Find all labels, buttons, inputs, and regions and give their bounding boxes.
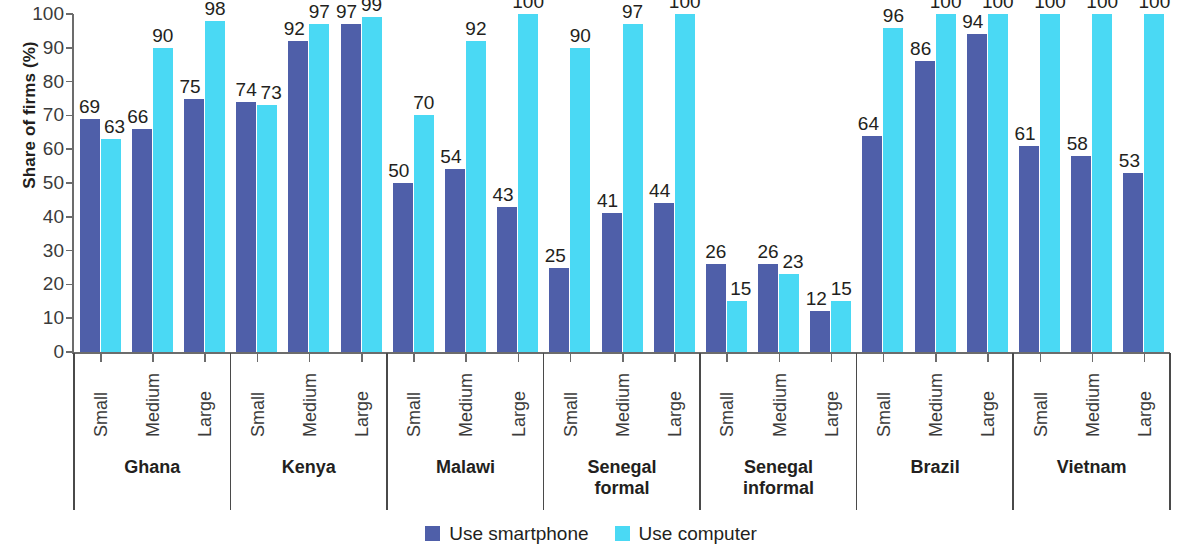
category-label-large: Large xyxy=(196,391,214,437)
group-separator xyxy=(856,353,858,510)
bar-value-label: 23 xyxy=(771,252,815,271)
category-label-large: Large xyxy=(823,391,841,437)
legend-item: Use computer xyxy=(615,524,757,543)
bar-value-label: 15 xyxy=(819,279,863,298)
bar-use-computer xyxy=(727,301,747,352)
y-tick-label: 60 xyxy=(16,139,64,158)
bar-use-computer xyxy=(101,139,121,352)
bar-use-smartphone xyxy=(184,99,204,353)
category-tick xyxy=(622,353,624,362)
bar-value-label: 100 xyxy=(506,0,550,11)
bar-use-computer xyxy=(257,105,277,352)
y-tick-label: 90 xyxy=(16,38,64,57)
bar-use-computer xyxy=(518,14,538,352)
bar-value-label: 90 xyxy=(141,26,185,45)
category-tick xyxy=(674,353,676,362)
bar-use-smartphone xyxy=(862,136,882,352)
bar-use-smartphone xyxy=(393,183,413,352)
bar-value-label: 73 xyxy=(249,83,293,102)
bar-use-computer xyxy=(936,14,956,352)
group-label: Ghana xyxy=(74,457,231,478)
bar-use-smartphone xyxy=(80,119,100,352)
bar-value-label: 25 xyxy=(533,246,577,265)
bar-use-smartphone xyxy=(288,41,308,352)
bar-value-label: 44 xyxy=(638,181,682,200)
category-tick xyxy=(1092,353,1094,362)
bar-use-computer xyxy=(831,301,851,352)
category-label-small: Small xyxy=(875,392,893,437)
bar-value-label: 86 xyxy=(899,39,943,58)
bar-value-label: 43 xyxy=(481,185,525,204)
bar-use-computer xyxy=(883,28,903,352)
y-tick-label: 100 xyxy=(16,4,64,23)
category-tick xyxy=(1144,353,1146,362)
category-tick xyxy=(361,353,363,362)
y-tick-label: 70 xyxy=(16,105,64,124)
bar-value-label: 58 xyxy=(1055,134,1099,153)
bar-use-smartphone xyxy=(967,34,987,352)
group-separator xyxy=(230,353,232,510)
category-label-small: Small xyxy=(1032,392,1050,437)
bar-use-computer xyxy=(1040,14,1060,352)
category-tick xyxy=(309,353,311,362)
bar-use-computer xyxy=(205,21,225,352)
bar-value-label: 100 xyxy=(663,0,707,11)
bar-use-smartphone xyxy=(445,169,465,352)
bar-use-smartphone xyxy=(758,264,778,352)
bar-value-label: 100 xyxy=(1028,0,1072,11)
category-label-large: Large xyxy=(510,391,528,437)
bar-value-label: 92 xyxy=(454,19,498,38)
group-separator xyxy=(386,353,388,510)
category-tick xyxy=(257,353,259,362)
bar-use-smartphone xyxy=(915,61,935,352)
bar-value-label: 75 xyxy=(168,77,212,96)
category-label-small: Small xyxy=(405,392,423,437)
category-label-medium: Medium xyxy=(927,373,945,437)
bar-use-smartphone xyxy=(341,24,361,352)
category-tick xyxy=(518,353,520,362)
bar-value-label: 100 xyxy=(924,0,968,11)
bar-value-label: 100 xyxy=(976,0,1020,11)
y-tick-label: 80 xyxy=(16,72,64,91)
category-label-small: Small xyxy=(249,392,267,437)
category-tick xyxy=(100,353,102,362)
y-tick-label: 20 xyxy=(16,274,64,293)
bar-use-computer xyxy=(362,17,382,352)
bar-use-computer xyxy=(779,274,799,352)
group-separator xyxy=(1169,353,1171,510)
bar-value-label: 61 xyxy=(1003,124,1047,143)
category-tick xyxy=(779,353,781,362)
bar-value-label: 53 xyxy=(1107,151,1151,170)
bar-use-smartphone xyxy=(1019,146,1039,352)
legend-item: Use smartphone xyxy=(425,524,588,543)
category-tick xyxy=(935,353,937,362)
bar-value-label: 100 xyxy=(1080,0,1124,11)
bar-chart: Share of firms (%) 010203040506070809010… xyxy=(0,0,1182,550)
bar-value-label: 54 xyxy=(429,147,473,166)
category-label-medium: Medium xyxy=(771,373,789,437)
category-tick xyxy=(987,353,989,362)
group-label: Vietnam xyxy=(1013,457,1170,478)
chart-legend: Use smartphoneUse computer xyxy=(0,524,1182,543)
y-tick-label: 50 xyxy=(16,173,64,192)
bar-value-label: 97 xyxy=(611,2,655,21)
category-axis-area: SmallMediumLargeGhanaSmallMediumLargeKen… xyxy=(0,353,1182,518)
bar-value-label: 99 xyxy=(350,0,394,14)
legend-swatch-icon xyxy=(615,526,630,541)
bar-value-label: 70 xyxy=(402,93,446,112)
category-tick xyxy=(413,353,415,362)
category-label-small: Small xyxy=(92,392,110,437)
bar-value-label: 96 xyxy=(871,6,915,25)
y-tick-label: 40 xyxy=(16,207,64,226)
bar-value-label: 50 xyxy=(377,161,421,180)
bar-value-label: 90 xyxy=(558,26,602,45)
category-label-small: Small xyxy=(562,392,580,437)
group-separator xyxy=(73,353,75,510)
bar-use-smartphone xyxy=(497,207,517,352)
bar-use-smartphone xyxy=(1071,156,1091,352)
group-label: Malawi xyxy=(387,457,544,478)
group-label: Senegal formal xyxy=(544,457,701,499)
bar-value-label: 64 xyxy=(846,114,890,133)
category-label-medium: Medium xyxy=(457,373,475,437)
category-label-small: Small xyxy=(718,392,736,437)
